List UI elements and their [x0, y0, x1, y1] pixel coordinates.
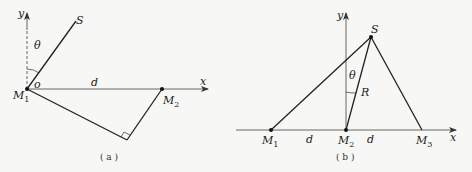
x-axis-label-b: x [450, 131, 457, 144]
diagram-canvas: y x S θ o d M1 M2 ( a ) y x S θ R d d M1… [0, 0, 472, 172]
source-label-b: S [371, 23, 379, 36]
caption-a: ( a ) [100, 152, 118, 162]
point-m1-b [269, 128, 273, 132]
m3-label-b: M3 [415, 134, 432, 149]
line-m1-corner [27, 89, 127, 140]
point-m2-a [160, 87, 164, 91]
line-corner-m2 [127, 89, 162, 140]
angle-arc-a [27, 69, 39, 73]
panel-a: y x S θ o d M1 M2 ( a ) [12, 7, 208, 162]
right-angle-mark [121, 132, 130, 137]
line-m2-s-b [346, 37, 371, 130]
panel-b: y x S θ R d d M1 M2 M3 ( b ) [236, 9, 457, 162]
distance-right-label-b: d [367, 133, 374, 146]
distance-label-a: d [91, 76, 98, 89]
origin-label-a: o [34, 78, 41, 91]
m1-label-a: M1 [12, 89, 29, 104]
angle-label-a: θ [34, 39, 41, 52]
y-axis-label-b: y [336, 9, 344, 22]
caption-b: ( b ) [336, 152, 355, 162]
distance-left-label-b: d [306, 133, 313, 146]
angle-label-b: θ [349, 69, 356, 82]
m2-label-b: M2 [337, 134, 354, 149]
m1-label-b: M1 [261, 134, 278, 149]
x-axis-label-a: x [200, 75, 207, 88]
point-m1-a [25, 87, 29, 91]
source-label-a: S [76, 14, 84, 27]
y-axis-label-a: y [17, 7, 25, 20]
line-m1-s-b [271, 37, 371, 130]
line-m3-s-b [371, 37, 422, 130]
radius-label-b: R [360, 86, 369, 99]
m2-label-a: M2 [162, 94, 179, 109]
angle-arc-b [346, 92, 356, 93]
point-m2-b [344, 128, 348, 132]
